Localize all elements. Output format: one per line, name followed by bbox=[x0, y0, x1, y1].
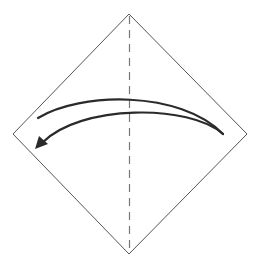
origami-diagram bbox=[0, 0, 260, 266]
diagram-svg bbox=[0, 0, 260, 266]
fold-arrow-lower-curve bbox=[42, 113, 223, 143]
fold-arrow-upper-curve bbox=[38, 99, 223, 134]
